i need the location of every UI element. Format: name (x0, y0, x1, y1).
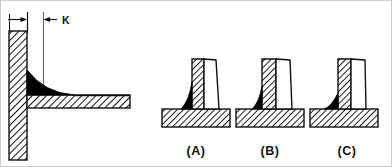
main-weld-fillet (27, 70, 74, 95)
welding-cross-section-figure: K (A) (0, 0, 392, 167)
subfigure-a-fillet-weld (181, 82, 192, 109)
main-horizontal-plate (27, 95, 130, 108)
subfigure-a-weld-buildup (204, 59, 219, 109)
dimension-arrowhead-left (21, 17, 28, 22)
subfigure-c-base-plate (310, 109, 378, 127)
main-vertical-plate (9, 31, 27, 160)
subfigure-b-label: (B) (260, 144, 279, 158)
dimension-label-k: K (62, 14, 70, 26)
subfigure-c-fillet-weld (324, 93, 338, 109)
subfigure-b: (B) (236, 59, 304, 158)
figure-canvas: K (A) (0, 0, 392, 167)
subfigure-b-weld-buildup (276, 59, 292, 109)
subfigure-c-vertical-member (338, 59, 351, 109)
main-fillet-weld-detail (9, 31, 130, 160)
subfigure-a-vertical-member (192, 59, 204, 109)
subfigure-c-weld-buildup (351, 59, 366, 109)
subfigure-b-vertical-member (262, 59, 276, 109)
subfigure-a-label: (A) (186, 144, 205, 158)
subfigure-c-label: (C) (337, 144, 356, 158)
subfigure-b-fillet-weld (252, 86, 262, 109)
subfigure-a-base-plate (162, 109, 230, 127)
dimension-arrowhead-right (44, 17, 51, 22)
subfigure-b-base-plate (236, 109, 304, 127)
subfigure-a: (A) (162, 59, 230, 158)
subfigure-c: (C) (310, 59, 378, 158)
